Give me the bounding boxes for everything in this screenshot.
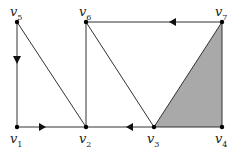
graph-diagram: v1 v2 v3 v4 v5 v6 v7	[0, 0, 238, 148]
vertex-v3	[152, 125, 156, 129]
arrow-right-icon	[39, 123, 46, 131]
vertex-v4	[220, 125, 224, 129]
label-v6: v6	[79, 5, 91, 22]
edge-v6-v3	[86, 22, 154, 127]
label-v1: v1	[10, 132, 22, 148]
arrow-down-icon	[13, 56, 21, 64]
label-v5: v5	[10, 5, 22, 22]
graph-canvas	[0, 0, 238, 148]
label-v3: v3	[147, 132, 159, 148]
arrow-left-icon-v3-v2	[126, 123, 133, 131]
label-v2: v2	[79, 132, 91, 148]
label-v7: v7	[215, 5, 227, 22]
label-v4: v4	[215, 132, 227, 148]
vertex-v2	[84, 125, 88, 129]
vertex-v1	[15, 125, 19, 129]
arrow-left-icon-v7-v6	[169, 18, 176, 26]
edge-v5-v2	[17, 22, 86, 127]
